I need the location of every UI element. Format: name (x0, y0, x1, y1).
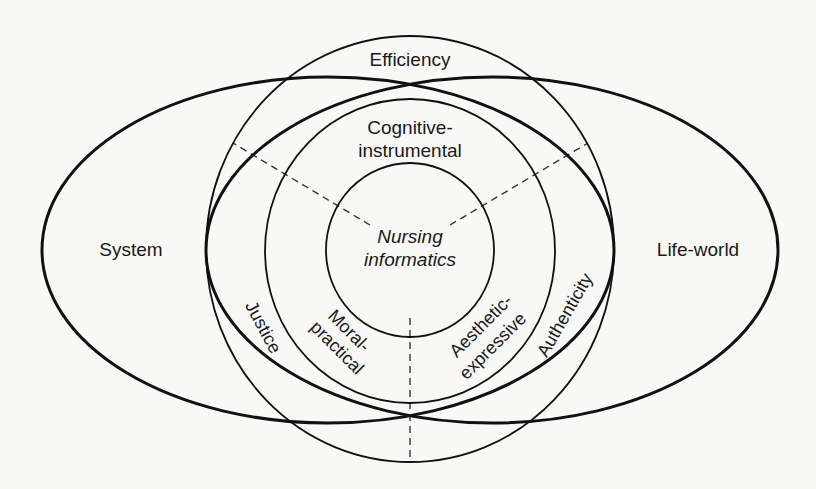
label-system: System (99, 239, 162, 260)
nursing-informatics-diagram: Efficiency Cognitive- instrumental Syste… (0, 0, 816, 489)
label-cognitive-line1: Cognitive- (367, 117, 453, 138)
label-justice: Justice (241, 298, 285, 357)
label-cognitive-line2: instrumental (358, 140, 462, 161)
label-life-world: Life-world (657, 239, 739, 260)
label-efficiency: Efficiency (370, 49, 451, 70)
label-nursing: Nursing (377, 226, 443, 247)
label-informatics: informatics (364, 249, 456, 270)
